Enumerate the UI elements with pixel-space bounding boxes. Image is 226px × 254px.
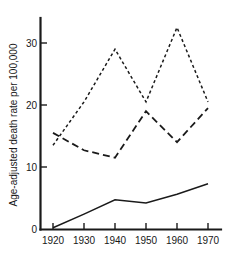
y-tick-label-10: 10 bbox=[26, 162, 38, 173]
series-short-dashed bbox=[53, 28, 208, 146]
y-tick-label-20: 20 bbox=[26, 100, 38, 111]
y-tick-label-30: 30 bbox=[26, 38, 38, 49]
x-axis-ticks bbox=[53, 223, 208, 229]
y-tick-label-0: 0 bbox=[31, 224, 37, 235]
y-axis-ticks bbox=[41, 43, 47, 167]
line-chart: 30 20 10 0 Age-adjusted death rate per 1… bbox=[0, 0, 226, 254]
x-tick-label-1930: 1930 bbox=[73, 235, 96, 246]
chart-container: 30 20 10 0 Age-adjusted death rate per 1… bbox=[0, 0, 226, 254]
x-tick-label-1960: 1960 bbox=[166, 235, 189, 246]
x-tick-label-1920: 1920 bbox=[42, 235, 65, 246]
y-axis-title: Age-adjusted death rate per 100,000 bbox=[8, 43, 19, 206]
x-tick-label-1970: 1970 bbox=[197, 235, 220, 246]
plot-series-group bbox=[53, 28, 208, 228]
series-long-dashed bbox=[53, 108, 208, 158]
y-axis-group: 30 20 10 0 Age-adjusted death rate per 1… bbox=[8, 18, 47, 235]
x-axis-group: 1920 1930 1940 1950 1960 1970 bbox=[41, 223, 222, 246]
x-tick-label-1940: 1940 bbox=[104, 235, 127, 246]
series-solid bbox=[53, 184, 208, 228]
x-tick-label-1950: 1950 bbox=[135, 235, 158, 246]
